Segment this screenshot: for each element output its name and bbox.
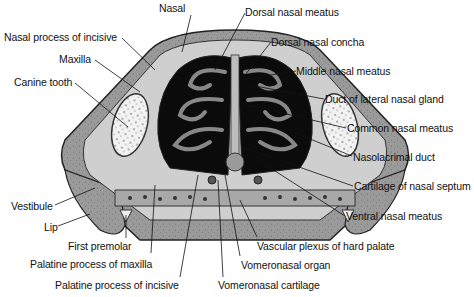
label-common-nasal-meatus: Common nasal meatus [347,122,453,134]
label-maxilla: Maxilla [59,53,91,65]
label-dorsal-nasal-meatus: Dorsal nasal meatus [245,6,339,18]
label-vestibule: Vestibule [11,200,53,212]
label-vomeronasal-organ: Vomeronasal organ [241,259,330,271]
label-vomeronasal-cartilage: Vomeronasal cartilage [218,279,320,291]
label-palatine-process-of-maxilla: Palatine process of maxilla [30,258,152,270]
label-nasal-process-of-incisive: Nasal process of incisive [4,31,117,43]
label-cartilage-of-nasal-septum: Cartilage of nasal septum [354,180,471,192]
label-lip: Lip [44,221,58,233]
anatomy-illustration [0,0,474,297]
label-vascular-plexus-of-hard-palate: Vascular plexus of hard palate [257,240,394,252]
label-nasal: Nasal [159,2,185,14]
label-first-premolar: First premolar [68,240,131,252]
label-canine-tooth: Canine tooth [14,76,72,88]
label-middle-nasal-meatus: Middle nasal meatus [296,65,390,77]
label-palatine-process-of-incisive: Palatine process of incisive [55,279,179,291]
label-ventral-nasal-meatus: Ventral nasal meatus [346,210,442,222]
label-dorsal-nasal-concha: Dorsal nasal concha [271,36,364,48]
nasal-cavity [158,55,313,184]
label-nasolacrimal-duct: Nasolacrimal duct [353,151,435,163]
label-duct-of-lateral-nasal-gland: Duct of lateral nasal gland [325,93,444,105]
